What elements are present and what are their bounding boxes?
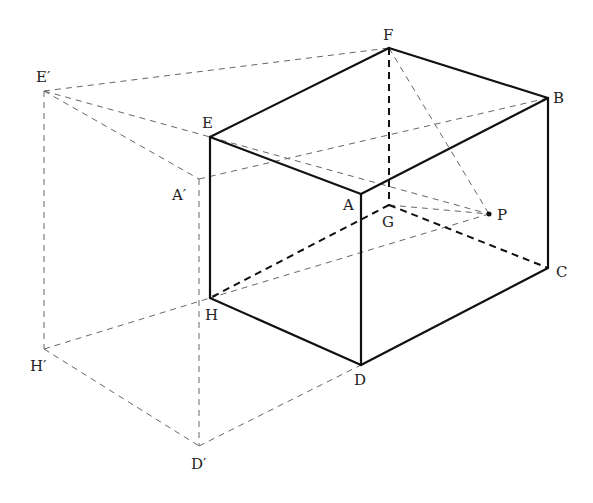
- construction-line-e1-e: [44, 91, 210, 137]
- construction-line-h1-d1: [44, 349, 199, 446]
- edge-f-b: [389, 48, 548, 98]
- construction-line-e1-f: [44, 48, 389, 91]
- construction-line-e1-a1: [44, 91, 199, 179]
- label-g: G: [382, 213, 394, 231]
- label-h: H: [205, 306, 218, 324]
- label-h1: H′: [30, 357, 47, 375]
- construction-lines: [44, 48, 548, 446]
- point-p-dot-icon: [487, 212, 492, 217]
- label-a: A: [342, 196, 354, 214]
- label-d1: D′: [191, 455, 207, 473]
- label-e: E: [202, 114, 213, 132]
- construction-line-h1-h: [44, 298, 210, 349]
- construction-line-a1-b: [199, 98, 548, 179]
- marked-points: [487, 212, 492, 217]
- construction-line-h-p: [210, 214, 489, 298]
- label-b: B: [553, 89, 564, 107]
- edge-h-d: [210, 298, 361, 365]
- label-f: F: [383, 26, 393, 44]
- edge-a-e: [210, 137, 361, 194]
- label-c: C: [556, 263, 567, 281]
- edge-d-c: [361, 268, 548, 365]
- label-d: D: [354, 371, 366, 389]
- hidden-edge-g-h: [210, 205, 389, 298]
- construction-line-g-p: [389, 205, 489, 214]
- construction-line-d1-d: [199, 365, 361, 446]
- label-a1: A′: [171, 186, 187, 204]
- label-e1: E′: [36, 68, 51, 86]
- edge-e-f: [210, 48, 389, 137]
- hidden-edges: [210, 48, 548, 298]
- label-p: P: [497, 206, 507, 224]
- box-projection-diagram: FBEAGPCHDE′A′H′D′: [0, 0, 593, 503]
